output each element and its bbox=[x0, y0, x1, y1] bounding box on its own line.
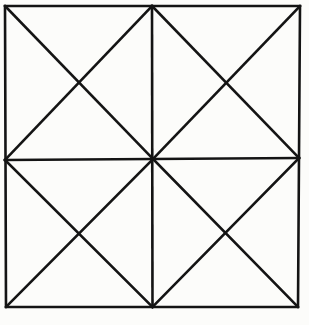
subdivided-square-figure bbox=[0, 0, 309, 325]
figure-page bbox=[0, 0, 309, 325]
